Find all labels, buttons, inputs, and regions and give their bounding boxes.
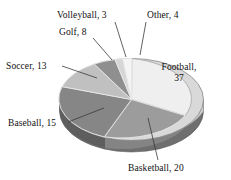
leader-line-golf (93, 38, 112, 60)
pie-chart-figure: Volleyball, 3 Other, 4 Golf, 8 Soccer, 1… (0, 0, 231, 180)
slice-label-volleyball: Volleyball, 3 (57, 10, 107, 21)
slice-label-football-name: Football, (162, 62, 197, 72)
slice-label-football: Football, 37 (147, 62, 211, 84)
pie-chart-graphic (0, 0, 231, 180)
slice-label-other: Other, 4 (147, 10, 179, 21)
slice-label-golf: Golf, 8 (59, 27, 87, 38)
leader-line-volleyball (115, 22, 126, 57)
slice-label-soccer: Soccer, 13 (6, 61, 47, 72)
slice-label-baseball: Baseball, 15 (8, 118, 56, 129)
slice-label-football-value: 37 (174, 73, 184, 83)
leader-line-other (140, 22, 146, 55)
slice-label-basketball: Basketball, 20 (128, 163, 184, 174)
